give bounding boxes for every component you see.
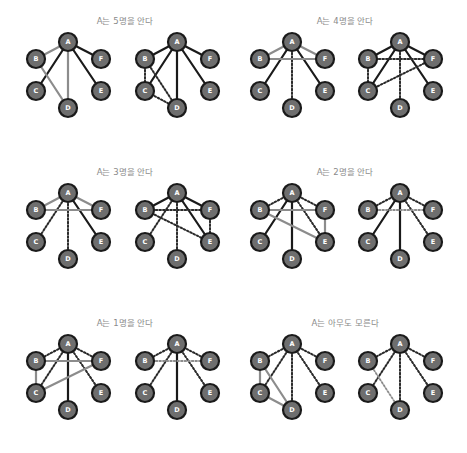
node-label: A — [289, 189, 294, 197]
node-f: F — [316, 352, 334, 370]
node-label: B — [34, 357, 39, 365]
node-b: B — [136, 201, 154, 219]
friendship-graphs-figure: A는 5명을 안다ABFCEDABFCEDA는 4명을 안다ABFCEDABFC… — [0, 0, 467, 453]
node-b: B — [27, 201, 45, 219]
node-label: C — [258, 389, 263, 397]
panel-title: A는 4명을 안다 — [317, 16, 374, 26]
node-label: A — [65, 189, 70, 197]
node-label: F — [208, 55, 212, 63]
node-c: C — [136, 384, 154, 402]
node-label: B — [34, 206, 39, 214]
node-c: C — [27, 82, 45, 100]
node-label: C — [34, 389, 39, 397]
node-label: F — [99, 206, 103, 214]
node-d: D — [168, 99, 186, 117]
node-f: F — [92, 352, 110, 370]
node-e: E — [316, 82, 334, 100]
node-label: E — [99, 238, 103, 246]
node-c: C — [251, 384, 269, 402]
node-c: C — [251, 233, 269, 251]
node-d: D — [283, 99, 301, 117]
node-label: F — [99, 357, 103, 365]
node-d: D — [391, 401, 409, 419]
node-label: B — [143, 206, 148, 214]
node-label: E — [323, 238, 327, 246]
node-label: C — [258, 87, 263, 95]
node-label: A — [174, 38, 179, 46]
node-label: A — [289, 340, 294, 348]
node-label: B — [258, 55, 263, 63]
node-label: D — [289, 104, 295, 112]
node-d: D — [59, 401, 77, 419]
node-a: A — [283, 184, 301, 202]
node-label: A — [397, 340, 402, 348]
node-c: C — [359, 82, 377, 100]
node-e: E — [424, 384, 442, 402]
node-label: A — [174, 340, 179, 348]
node-e: E — [201, 82, 219, 100]
node-e: E — [92, 233, 110, 251]
node-b: B — [251, 50, 269, 68]
panel-title: A는 1명을 안다 — [97, 318, 154, 328]
node-d: D — [168, 250, 186, 268]
node-a: A — [283, 33, 301, 51]
panel-title: A는 3명을 안다 — [97, 167, 154, 177]
node-c: C — [359, 384, 377, 402]
node-label: D — [65, 255, 71, 263]
node-e: E — [316, 384, 334, 402]
node-c: C — [136, 82, 154, 100]
node-label: D — [174, 255, 180, 263]
node-c: C — [27, 233, 45, 251]
node-label: E — [431, 87, 435, 95]
node-e: E — [92, 82, 110, 100]
node-label: D — [65, 406, 71, 414]
node-label: A — [65, 38, 70, 46]
node-label: F — [208, 206, 212, 214]
node-label: A — [397, 189, 402, 197]
panel-title: A는 2명을 안다 — [317, 167, 374, 177]
node-f: F — [424, 50, 442, 68]
node-label: E — [431, 389, 435, 397]
node-d: D — [283, 250, 301, 268]
node-d: D — [59, 99, 77, 117]
node-e: E — [92, 384, 110, 402]
node-d: D — [283, 401, 301, 419]
node-f: F — [201, 50, 219, 68]
node-label: D — [289, 255, 295, 263]
node-label: A — [65, 340, 70, 348]
node-c: C — [136, 233, 154, 251]
node-b: B — [136, 50, 154, 68]
node-a: A — [391, 33, 409, 51]
node-label: A — [397, 38, 402, 46]
node-label: E — [431, 238, 435, 246]
node-d: D — [168, 401, 186, 419]
node-a: A — [59, 335, 77, 353]
node-label: E — [323, 389, 327, 397]
node-b: B — [359, 352, 377, 370]
node-b: B — [27, 352, 45, 370]
node-label: D — [397, 104, 403, 112]
node-e: E — [316, 233, 334, 251]
node-c: C — [27, 384, 45, 402]
node-c: C — [359, 233, 377, 251]
node-label: B — [366, 55, 371, 63]
node-e: E — [424, 233, 442, 251]
node-label: C — [143, 238, 148, 246]
node-a: A — [168, 335, 186, 353]
node-label: E — [99, 389, 103, 397]
node-f: F — [92, 201, 110, 219]
node-label: B — [143, 55, 148, 63]
node-label: B — [258, 357, 263, 365]
node-a: A — [59, 33, 77, 51]
node-f: F — [201, 352, 219, 370]
node-f: F — [316, 50, 334, 68]
node-label: C — [143, 87, 148, 95]
node-e: E — [201, 384, 219, 402]
node-label: D — [397, 255, 403, 263]
node-label: F — [99, 55, 103, 63]
node-label: E — [208, 238, 212, 246]
background — [0, 0, 467, 453]
panel-title: A는 아무도 모른다 — [311, 318, 378, 328]
node-label: F — [208, 357, 212, 365]
node-label: F — [323, 206, 327, 214]
